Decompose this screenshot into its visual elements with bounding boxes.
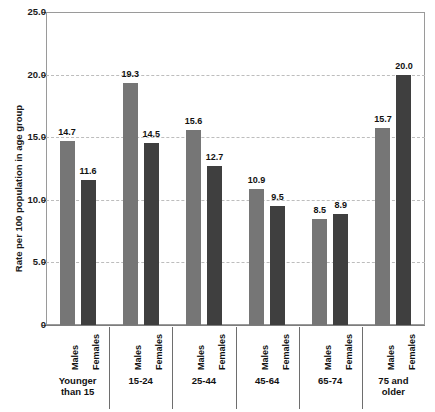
series-label-females: Females (408, 334, 417, 370)
bar-value-label: 12.7 (198, 153, 230, 162)
bar-value-label: 11.6 (72, 167, 104, 176)
series-label-males: Males (261, 345, 270, 370)
x-group-label: Younger than 15 (46, 375, 109, 397)
y-tick-label: 10.0 (4, 195, 46, 205)
bar-chart: Rate per 100 population in age group 25.… (0, 0, 435, 412)
bar (249, 189, 264, 325)
group-separator (172, 327, 173, 409)
bar (123, 83, 138, 325)
group-separator (236, 327, 237, 409)
series-label-females: Females (92, 334, 101, 370)
y-tick-label: 15.0 (4, 132, 46, 142)
bar-value-label: 14.5 (135, 130, 167, 139)
y-tick-label: 20.0 (4, 70, 46, 80)
x-axis-labels: MalesFemalesYounger than 15MalesFemales1… (0, 325, 435, 412)
series-label-females: Females (345, 334, 354, 370)
series-label-females: Females (155, 334, 164, 370)
bar (81, 180, 96, 325)
series-label-females: Females (218, 334, 227, 370)
bar-value-label: 20.0 (388, 62, 420, 71)
series-label-males: Males (324, 345, 333, 370)
bar (312, 219, 327, 325)
bar (396, 75, 411, 325)
series-label-males: Males (387, 345, 396, 370)
y-tick-label: 25.0 (4, 7, 46, 17)
bar (333, 214, 348, 325)
bar-value-label: 8.9 (325, 201, 357, 210)
x-group-label: 15-24 (109, 375, 172, 386)
group-separator (109, 327, 110, 409)
bar-value-label: 15.6 (177, 117, 209, 126)
bar (375, 128, 390, 325)
series-label-males: Males (197, 345, 206, 370)
x-group-label: 75 and older (362, 375, 425, 397)
x-group-label: 45-64 (236, 375, 299, 386)
x-group-label: 25-44 (172, 375, 235, 386)
series-label-females: Females (282, 334, 291, 370)
bar-value-label: 14.7 (51, 128, 83, 137)
bar-value-label: 9.5 (262, 193, 294, 202)
series-label-males: Males (134, 345, 143, 370)
x-group-label: 65-74 (299, 375, 362, 386)
bar-value-label: 15.7 (367, 115, 399, 124)
bar-value-label: 19.3 (114, 70, 146, 79)
bar (144, 143, 159, 325)
y-tick-label: 5.0 (4, 257, 46, 267)
bar (207, 166, 222, 325)
y-axis-title: Rate per 100 population in age group (13, 94, 24, 284)
group-separator (299, 327, 300, 409)
series-label-males: Males (71, 345, 80, 370)
group-separator (362, 327, 363, 409)
bar-value-label: 10.9 (241, 176, 273, 185)
bar (270, 206, 285, 325)
